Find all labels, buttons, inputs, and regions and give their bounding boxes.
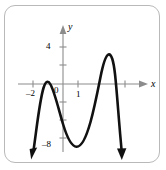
graph-canvas	[0, 0, 166, 170]
x-tick-label-one: 1	[76, 90, 81, 99]
y-tick-label-4: 4	[46, 42, 51, 51]
origin-label: 0	[54, 86, 59, 95]
left-end-arrowhead	[30, 148, 38, 160]
y-tick-label-neg8: –8	[42, 140, 51, 149]
x-axis	[18, 81, 148, 88]
x-tick-label-neg2: –2	[26, 89, 35, 98]
right-end-arrowhead	[117, 148, 126, 160]
x-axis-label: x	[151, 79, 155, 89]
figure-frame: y x 0 4 –8 –2 1	[0, 0, 166, 170]
y-axis-label: y	[68, 22, 72, 32]
